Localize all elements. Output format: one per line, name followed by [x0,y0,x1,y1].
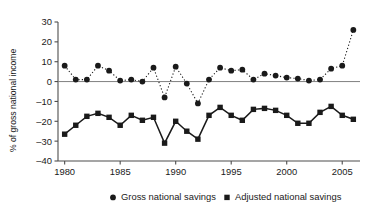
data-point-marker [206,77,212,83]
data-point-marker [184,129,189,134]
data-point-marker [151,65,157,71]
data-point-marker [95,63,101,69]
data-point-marker [62,63,68,69]
data-point-marker [117,123,122,128]
data-point-marker [295,121,300,126]
data-point-marker [217,105,222,110]
chart-series-layer [62,27,356,146]
y-tick-label: –30 [36,136,52,147]
chart-legend: Gross national savingsAdjusted national … [110,191,342,202]
data-point-marker [84,114,89,119]
data-point-marker [140,118,145,123]
y-tick-label: 10 [42,56,52,67]
data-point-marker [206,113,211,118]
data-point-marker [151,115,156,120]
data-point-marker [317,110,322,115]
data-point-marker [128,77,134,83]
x-tick-label: 1980 [54,166,75,177]
x-tick-label: 2005 [332,166,353,177]
data-point-marker [73,77,79,83]
data-point-marker [239,67,245,73]
data-point-marker [284,113,289,118]
y-tick-label: 20 [42,36,52,47]
y-tick-label: –10 [36,96,52,107]
data-point-marker [328,66,334,72]
data-point-marker [162,95,168,101]
data-point-marker [262,71,268,77]
x-tick-label: 2000 [276,166,297,177]
data-point-marker [339,63,345,69]
data-point-marker [295,76,301,82]
data-point-marker [240,118,245,123]
series-1 [62,27,356,106]
y-axis-tick-labels: 3020100–10–20–30–40 [36,16,52,166]
data-point-marker [129,113,134,118]
x-tick-label: 1995 [221,166,242,177]
data-point-marker [251,77,257,83]
data-point-marker [262,106,267,111]
data-point-marker [162,140,167,145]
legend-label: Adjusted national savings [235,191,342,202]
data-point-marker [195,101,201,107]
data-point-marker [84,77,90,83]
y-tick-label: 30 [42,16,52,27]
data-point-marker [306,121,311,126]
data-point-marker [273,108,278,113]
x-axis-tick-labels: 198019851990199520002005 [54,166,352,177]
data-point-marker [340,113,345,118]
data-point-marker [350,27,356,33]
y-tick-label: 0 [47,76,52,87]
chart-axes [55,22,361,165]
data-point-marker [306,78,312,84]
legend-label: Gross national savings [121,191,216,202]
y-tick-label: –40 [36,155,52,166]
y-tick-label: –20 [36,116,52,127]
data-point-marker [317,77,323,83]
data-point-marker [106,68,112,74]
data-point-marker [106,115,111,120]
chart-canvas: % of gross national income 3020100–10–20… [0,0,384,216]
data-point-marker [95,111,100,116]
data-point-marker [351,117,356,122]
y-axis-title: % of gross national income [8,49,18,152]
data-point-marker [229,113,234,118]
legend-circle-icon [110,195,116,201]
data-point-marker [217,65,223,71]
data-point-marker [117,78,123,84]
series-line [65,30,354,103]
x-tick-label: 1985 [110,166,131,177]
data-point-marker [62,131,67,136]
series-2 [62,104,356,146]
data-point-marker [328,104,333,109]
data-point-marker [73,123,78,128]
data-point-marker [228,68,234,74]
chart-figure: % of gross national income 3020100–10–20… [0,0,384,216]
data-point-marker [284,75,290,81]
data-point-marker [273,73,279,79]
x-tick-label: 1990 [165,166,186,177]
data-point-marker [173,119,178,124]
data-point-marker [139,79,145,85]
legend-square-icon [224,195,229,200]
data-point-marker [195,136,200,141]
data-point-marker [184,81,190,87]
data-point-marker [251,107,256,112]
data-point-marker [173,64,179,70]
